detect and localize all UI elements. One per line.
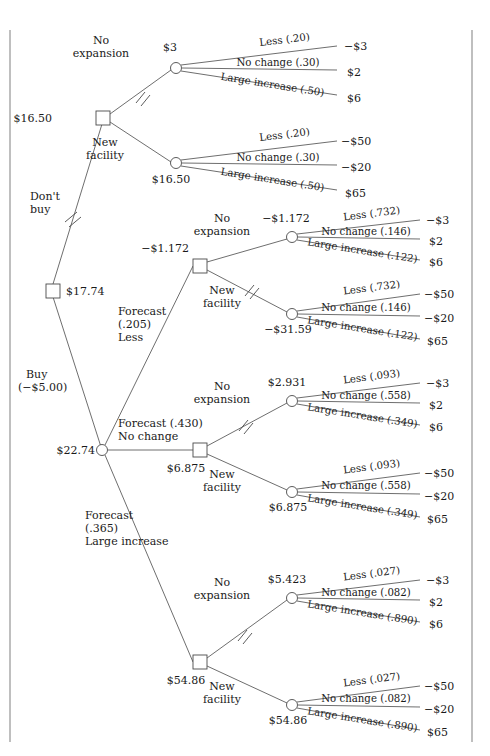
payoff-D1: −$50 [424,288,454,301]
branch-label-dont-buy-line1: Don't [30,190,61,203]
branch-no-expansion-E [207,403,287,446]
chance-node-no-expansion-E[interactable] [287,396,298,407]
chance-value-new-facility-E: $6.875 [269,501,308,514]
payoff-H1: −$50 [424,680,454,693]
root-decision-node[interactable] [46,284,60,298]
forecast-label-less-l1: Forecast [118,305,167,318]
payoff-E2: $2 [429,399,443,412]
forecast-label-less-l3: Less [118,331,143,344]
branch-label-new-facility-C-l2: facility [203,297,242,310]
chance-value-new-facility-C: −$31.59 [264,323,312,336]
buy-forecast-chance-node[interactable] [97,445,108,456]
forecast-label-large-increase-l3: Large increase [85,535,168,548]
payoff-A3: $6 [347,92,361,105]
forecast-less-decision-node[interactable] [193,259,207,273]
payoff-C2: $2 [429,235,443,248]
prune-mark-dont-buy-1 [65,212,77,222]
branch-label-new-facility-A-l1: New [92,136,118,149]
chance-value-new-facility-G: $54.86 [269,714,308,727]
forecast-large-increase-decision-node[interactable] [193,655,207,669]
branch-label-new-facility-E-l1: New [209,468,235,481]
prune-mark-dont-buy-2 [69,217,81,227]
chance-node-new-facility-C[interactable] [287,309,298,320]
branch-label-no-expansion-A-l1: No [93,34,110,47]
chance-node-no-expansion-A[interactable] [171,63,182,74]
chance-node-new-facility-G[interactable] [287,700,298,711]
outcome-label-B2: No change (.30) [236,152,319,163]
branch-forecast-large-increase [105,455,193,662]
payoff-G2: $2 [429,596,443,609]
payoff-A2: $2 [347,66,361,79]
forecast-no-change-subtree: $6.875 No expansion New facility $2.931 … [167,368,454,526]
prune-G-1 [238,630,247,641]
payoff-A1: −$3 [344,40,367,53]
outcome-label-A1: Less (.20) [259,31,311,48]
branch-label-no-expansion-C-l1: No [214,212,231,225]
chance-value-new-facility-A: $16.50 [152,173,191,186]
payoff-F3: $65 [427,513,448,526]
outcome-label-C3: Large increase (.122) [307,236,419,264]
payoff-F1: −$50 [424,467,454,480]
outcome-label-D2: No change (.146) [321,302,411,313]
outcome-line-A2 [182,68,337,70]
branch-label-dont-buy-line2: buy [30,203,51,216]
outcome-label-E3: Large increase (.349) [307,401,419,429]
branch-label-no-expansion-E-l2: expansion [194,393,250,406]
outcome-label-C1: Less (.732) [343,205,401,223]
payoff-B3: $65 [345,187,366,200]
payoff-E1: −$3 [426,377,449,390]
branch-no-expansion-G [207,600,287,658]
forecast-label-less-l2: (.205) [118,318,151,331]
outcome-label-F3: Large increase (.349) [307,492,419,520]
prune-E-2 [244,423,253,434]
prune-A-1 [136,92,145,103]
branch-no-expansion-C [207,239,287,262]
branch-label-new-facility-C-l1: New [209,284,235,297]
payoff-C3: $6 [429,256,443,269]
chance-node-new-facility-E[interactable] [287,487,298,498]
branch-label-new-facility-G-l2: facility [203,693,242,706]
outcome-label-H2: No change (.082) [321,693,411,704]
chance-node-no-expansion-G[interactable] [287,593,298,604]
outcome-label-H1: Less (.027) [343,671,401,689]
root-decision-group: $17.74 Don't buy Buy (−$5.00) [18,124,105,450]
payoff-G3: $6 [429,618,443,631]
chance-node-no-expansion-C[interactable] [287,232,298,243]
forecast-large-increase-decision-value: $54.86 [167,674,206,687]
payoff-H3: $65 [427,726,448,739]
forecast-label-no-change-l1: Forecast (.430) [118,417,203,430]
prune-G-2 [243,633,252,644]
payoff-C1: −$3 [426,214,449,227]
branch-label-new-facility-A-l2: facility [86,149,125,162]
forecast-label-large-increase-l1: Forecast [85,509,134,522]
forecast-no-change-decision-value: $6.875 [167,462,206,475]
payoff-G1: −$3 [426,574,449,587]
outcome-label-H3: Large increase (.890) [307,705,419,733]
forecast-no-change-decision-node[interactable] [193,443,207,457]
branch-label-no-expansion-E-l1: No [214,380,231,393]
prune-E-1 [239,420,248,431]
branch-no-expansion-A [110,70,171,114]
chance-value-no-expansion-A: $3 [163,41,177,54]
outcome-label-B1: Less (.20) [259,126,311,143]
no-forecast-decision-node[interactable] [96,111,110,125]
chance-value-no-expansion-G: $5.423 [268,573,307,586]
forecast-large-increase-subtree: $54.86 No expansion New facility $5.423 … [167,565,454,739]
branch-label-buy-line1: Buy [26,368,48,381]
branch-label-no-expansion-A-l2: expansion [73,47,129,60]
root-value: $17.74 [66,285,105,298]
branch-buy [53,297,102,450]
outcome-label-G2: No change (.082) [321,587,411,598]
outcome-label-F1: Less (.093) [343,458,401,476]
chance-node-new-facility-A[interactable] [171,158,182,169]
outcome-label-D1: Less (.732) [343,279,401,297]
payoff-F2: −$20 [424,490,454,503]
payoff-B2: −$20 [341,161,371,174]
payoff-H2: −$20 [424,703,454,716]
outcome-label-G1: Less (.027) [343,565,401,583]
outcome-label-A3: Large increase (.50) [220,71,325,98]
no-forecast-decision-value: $16.50 [14,112,53,125]
branch-label-no-expansion-G-l2: expansion [194,589,250,602]
payoff-D2: −$20 [424,312,454,325]
chance-value-no-expansion-C: −$1.172 [262,212,310,225]
